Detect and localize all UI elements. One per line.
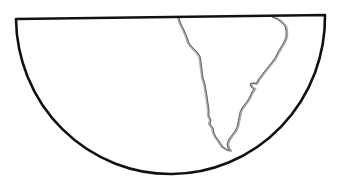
coastline-west-stipple	[178, 18, 229, 151]
half-disc-map-frame	[16, 15, 325, 174]
map-canvas	[0, 0, 339, 194]
map-frame	[0, 0, 339, 194]
